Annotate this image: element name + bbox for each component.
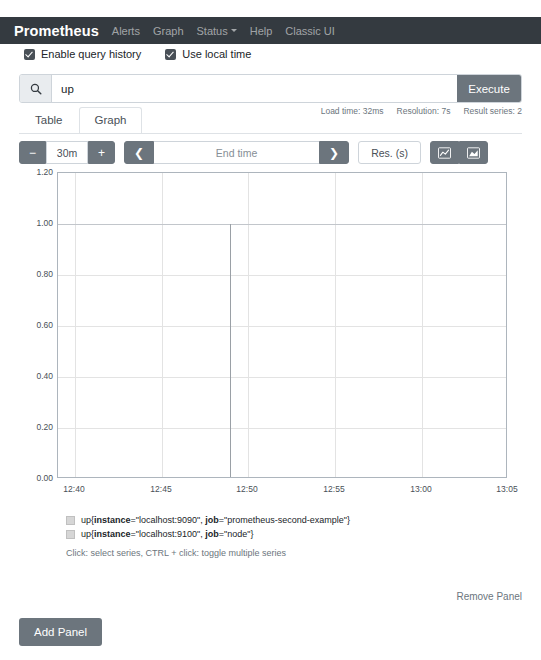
chart-type-group [430,141,488,164]
range-value-input[interactable]: 30m [46,141,88,164]
checkbox-checked-icon [24,49,35,60]
legend-metric: up [81,515,91,525]
x-axis-labels: 12:40 12:45 12:50 12:55 13:00 13:05 [57,484,507,498]
legend-item[interactable]: up{instance="localhost:9090", job="prome… [66,515,350,525]
x-tick-label: 12:55 [323,484,344,494]
legend-label-key: job [205,515,219,525]
y-tick-label: 0.20 [36,422,53,432]
prometheus-graph-page: Prometheus Alerts Graph Status Help Clas… [0,0,541,660]
time-prev-button[interactable]: ❮ [124,141,154,164]
legend-label-key: instance [94,529,131,539]
nav-item-graph-label: Graph [153,25,184,37]
time-next-button[interactable]: ❯ [319,141,349,164]
gridline-vertical [422,173,423,477]
remove-panel-link[interactable]: Remove Panel [456,591,522,602]
range-increase-button[interactable]: + [88,141,115,164]
stat-result-series: Result series: 2 [463,106,522,116]
nav-item-alerts[interactable]: Alerts [112,25,140,37]
gridline-vertical [162,173,163,477]
stat-load-time: Load time: 32ms [321,106,384,116]
y-tick-label: 0.60 [36,320,53,330]
query-input[interactable] [52,75,457,102]
y-axis-labels: 1.20 1.00 0.80 0.60 0.40 0.20 0.00 [19,166,53,476]
nav-item-status-label: Status [197,25,228,37]
y-tick-label: 1.20 [36,167,53,177]
x-tick-label: 13:05 [496,484,517,494]
gridline-horizontal [58,377,506,378]
options-row: Enable query history Use local time [24,48,275,60]
enable-query-history-label: Enable query history [41,48,141,60]
legend-hint: Click: select series, CTRL + click: togg… [66,548,286,558]
nav-item-status[interactable]: Status [197,25,237,37]
query-bar: Execute [19,74,522,103]
legend-item-label: up{instance="localhost:9090", job="prome… [81,515,350,525]
x-tick-label: 13:00 [410,484,431,494]
end-time-group: ❮ End time ❯ [124,141,349,164]
nav-item-help[interactable]: Help [250,25,273,37]
gridline-horizontal [58,326,506,327]
execute-button[interactable]: Execute [457,75,521,102]
line-chart-icon[interactable] [430,141,459,164]
stacked-chart-icon[interactable] [459,141,488,164]
query-stats: Load time: 32ms Resolution: 7s Result se… [308,106,522,116]
navbar: Prometheus Alerts Graph Status Help Clas… [0,17,541,44]
resolution-input[interactable]: Res. (s) [358,141,421,164]
x-tick-label: 12:45 [150,484,171,494]
nav-item-classic-ui-label: Classic UI [285,25,335,37]
plot-canvas[interactable] [57,172,507,478]
gridline-horizontal [58,275,506,276]
nav-links: Alerts Graph Status Help Classic UI [112,25,348,37]
checkbox-use-local-time[interactable]: Use local time [165,48,251,60]
legend-label-value: ="localhost:9090", [131,515,206,525]
range-control-group: − 30m + [19,141,115,164]
checkbox-enable-query-history[interactable]: Enable query history [24,48,141,60]
y-tick-label: 0.80 [36,269,53,279]
legend-item[interactable]: up{instance="localhost:9100", job="node"… [66,529,350,539]
brand-prometheus[interactable]: Prometheus [14,23,99,39]
tab-table[interactable]: Table [19,107,79,134]
series-drop-marker [230,224,231,478]
gridline-vertical [75,173,76,477]
legend-metric: up [81,529,91,539]
end-time-input[interactable]: End time [154,141,319,164]
tab-graph[interactable]: Graph [79,107,143,134]
graph-legend: up{instance="localhost:9090", job="prome… [66,515,350,543]
gridline-vertical [248,173,249,477]
y-tick-label: 1.00 [36,218,53,228]
legend-color-swatch [66,530,75,539]
stat-resolution: Resolution: 7s [397,106,451,116]
chevron-down-icon [231,29,237,32]
legend-label-key: job [205,529,219,539]
series-line-up [58,224,506,225]
legend-item-label: up{instance="localhost:9100", job="node"… [81,529,253,539]
gridline-vertical [335,173,336,477]
x-tick-label: 12:50 [236,484,257,494]
legend-label-key: instance [94,515,131,525]
legend-color-swatch [66,516,75,525]
gridline-horizontal [58,428,506,429]
nav-item-alerts-label: Alerts [112,25,140,37]
use-local-time-label: Use local time [182,48,251,60]
x-tick-label: 12:40 [63,484,84,494]
graph-area: 1.20 1.00 0.80 0.60 0.40 0.20 0.00 [19,166,522,496]
search-icon[interactable] [20,75,52,102]
tabs-divider [19,133,522,134]
legend-label-value: ="prometheus-second-example"} [219,515,350,525]
range-decrease-button[interactable]: − [19,141,46,164]
add-panel-button[interactable]: Add Panel [19,618,102,646]
y-tick-label: 0.40 [36,371,53,381]
nav-item-graph[interactable]: Graph [153,25,184,37]
nav-item-help-label: Help [250,25,273,37]
checkbox-checked-icon [165,49,176,60]
y-tick-label: 0.00 [36,473,53,483]
nav-item-classic-ui[interactable]: Classic UI [285,25,335,37]
legend-label-value: ="node"} [219,529,254,539]
panel-tabs: Table Graph [19,107,142,134]
legend-label-value: ="localhost:9100", [131,529,206,539]
graph-toolbar: − 30m + ❮ End time ❯ Res. (s) [19,141,497,164]
